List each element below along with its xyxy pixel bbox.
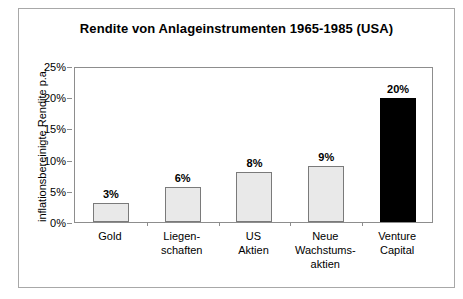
- x-axis-label-line: schaften: [146, 243, 218, 257]
- y-tick-mark: [67, 192, 72, 193]
- y-tick-label: 0%: [50, 217, 66, 229]
- chart-title: Rendite von Anlageinstrumenten 1965-1985…: [19, 21, 454, 36]
- x-axis-label: Gold: [74, 229, 146, 243]
- x-tick-mark: [147, 222, 148, 226]
- x-tick-mark: [219, 222, 220, 226]
- y-tick-mark: [67, 129, 72, 130]
- x-axis-label: NeueWachstums-aktien: [289, 229, 361, 271]
- y-tick-label: 5%: [50, 186, 66, 198]
- x-axis-label: VentureCapital: [361, 229, 433, 257]
- x-axis-tick-labels: GoldLiegen-schaftenUSAktienNeueWachstums…: [74, 229, 433, 285]
- bar[interactable]: [93, 203, 129, 222]
- x-axis-label-line: Liegen-: [146, 229, 218, 243]
- bar-value-label: 8%: [247, 157, 263, 169]
- x-axis-label-line: aktien: [289, 257, 361, 271]
- bar-group: 20%: [362, 68, 434, 222]
- x-axis-label: USAktien: [218, 229, 290, 257]
- y-tick-mark: [67, 67, 72, 68]
- bar[interactable]: [236, 172, 272, 222]
- bar-group: 6%: [147, 68, 219, 222]
- x-tick-mark: [362, 222, 363, 226]
- chart-frame: Rendite von Anlageinstrumenten 1965-1985…: [18, 8, 455, 288]
- y-tick-label: 10%: [44, 155, 66, 167]
- x-axis-label-line: Wachstums-: [289, 243, 361, 257]
- bar[interactable]: [308, 166, 344, 222]
- bar-value-label: 9%: [318, 151, 334, 163]
- bar-value-label: 3%: [103, 188, 119, 200]
- y-tick-label: 20%: [44, 92, 66, 104]
- x-tick-mark: [290, 222, 291, 226]
- y-tick-mark: [67, 223, 72, 224]
- bar-group: 3%: [75, 68, 147, 222]
- x-axis-label: Liegen-schaften: [146, 229, 218, 257]
- bar-group: 8%: [219, 68, 291, 222]
- bar[interactable]: [165, 187, 201, 222]
- y-tick-mark: [67, 161, 72, 162]
- bar-value-label: 6%: [175, 172, 191, 184]
- y-tick-mark: [67, 98, 72, 99]
- x-axis-label-line: Gold: [74, 229, 146, 243]
- x-axis-label-line: US: [218, 229, 290, 243]
- x-axis-label-line: Aktien: [218, 243, 290, 257]
- bar[interactable]: [380, 98, 416, 222]
- plot-area: 3%6%8%9%20%: [74, 67, 433, 223]
- bar-group: 9%: [290, 68, 362, 222]
- y-axis-tick-labels: 0%5%10%15%20%25%: [27, 67, 72, 223]
- x-axis-label-line: Capital: [361, 243, 433, 257]
- bar-value-label: 20%: [387, 83, 409, 95]
- y-tick-label: 25%: [44, 61, 66, 73]
- x-axis-label-line: Venture: [361, 229, 433, 243]
- x-axis-label-line: Neue: [289, 229, 361, 243]
- y-tick-label: 15%: [44, 123, 66, 135]
